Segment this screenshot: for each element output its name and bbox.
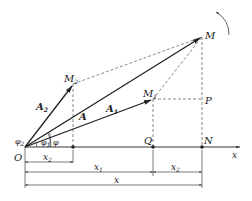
label-o: O bbox=[14, 152, 22, 163]
label-phi: φ bbox=[53, 138, 59, 147]
label-vector-a2: A2 bbox=[35, 101, 48, 113]
label-vector-a: A bbox=[78, 111, 87, 122]
label-n: N bbox=[203, 135, 214, 146]
point-foot-m2 bbox=[71, 145, 75, 149]
phasor-diagram: M M2 M1 P Q N O x A A1 A2 φ2 φ1 φ x2 x1 … bbox=[0, 0, 252, 201]
label-dim-x1: x1 bbox=[94, 162, 103, 173]
angle-arc-phi1 bbox=[36, 143, 37, 147]
label-dim-x2-left: x2 bbox=[43, 152, 52, 163]
label-x-axis: x bbox=[232, 150, 237, 160]
label-m: M bbox=[204, 30, 216, 41]
label-phi1: φ1 bbox=[41, 138, 50, 148]
label-p: P bbox=[204, 95, 212, 106]
label-m2: M2 bbox=[63, 73, 78, 85]
label-phi2: φ2 bbox=[15, 137, 25, 147]
label-q: Q bbox=[144, 135, 152, 146]
label-m1: M1 bbox=[142, 88, 157, 100]
label-dim-x: x bbox=[114, 175, 119, 185]
vector-a bbox=[25, 38, 200, 147]
label-dim-x2-right: x2 bbox=[171, 162, 180, 173]
label-vector-a1: A1 bbox=[105, 103, 118, 115]
dashed-m1-m bbox=[153, 37, 202, 99]
counterclockwise-rotation-icon bbox=[216, 12, 229, 35]
